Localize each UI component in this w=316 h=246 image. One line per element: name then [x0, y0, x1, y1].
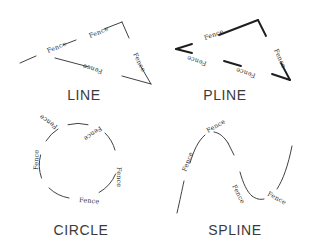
panel-pline: Fence Fence Fence Fence PLINE: [176, 20, 290, 103]
pline-seg: [176, 49, 192, 53]
caption-circle: CIRCLE: [54, 222, 109, 238]
caption-pline: PLINE: [203, 87, 246, 103]
pline-fence-labels: Fence Fence Fence Fence: [186, 27, 288, 79]
spline-seg: [252, 196, 264, 199]
fence-label: Fence: [82, 62, 104, 76]
caption-line: LINE: [67, 87, 101, 103]
line-geometry: [20, 22, 151, 84]
line-seg: [20, 56, 36, 63]
fence-label: Fence: [235, 66, 257, 80]
fence-label: Fence: [88, 25, 110, 40]
fence-label: Fence: [82, 124, 103, 142]
panel-spline: Fence Fence Fence Fence SPLINE: [177, 118, 292, 238]
fence-label: Fence: [186, 54, 208, 68]
fence-label: Fence: [79, 196, 100, 205]
spline-seg: [228, 143, 234, 155]
panel-line: Fence Fence Fence Fence LINE: [20, 22, 151, 103]
spline-seg: [277, 146, 292, 189]
pline-seg: [219, 20, 258, 35]
spline-fence-labels: Fence Fence Fence Fence: [180, 118, 287, 207]
fence-label: Fence: [131, 51, 147, 73]
circle-arc: [68, 123, 88, 124]
fence-label: Fence: [38, 113, 59, 131]
circle-arc: [49, 188, 69, 198]
circle-geometry: [39, 123, 115, 198]
line-seg: [122, 22, 129, 38]
pline-seg: [224, 61, 241, 66]
pline-seg: [258, 20, 266, 36]
line-fence-labels: Fence Fence Fence Fence: [46, 25, 148, 76]
fence-label: Fence: [46, 40, 68, 55]
caption-spline: SPLINE: [208, 222, 261, 238]
spline-seg: [214, 132, 228, 143]
circle-fence-labels: Fence Fence Fence Fence Fence: [32, 113, 123, 206]
fence-label: Fence: [32, 149, 41, 170]
fence-label: Fence: [203, 27, 225, 41]
fence-label: Fence: [115, 167, 123, 187]
circle-arc: [99, 174, 116, 193]
pline-seg: [176, 44, 192, 49]
panel-circle: Fence Fence Fence Fence Fence CIRCLE: [32, 113, 123, 238]
fence-label: Fence: [272, 48, 288, 70]
spline-seg: [177, 181, 184, 213]
fence-label: Fence: [230, 183, 246, 205]
fence-label: Fence: [180, 151, 195, 173]
fence-label: Fence: [266, 190, 288, 207]
fence-linetype-figure: Fence Fence Fence Fence LINE Fence Fence…: [0, 0, 316, 246]
circle-arc: [105, 133, 115, 150]
circle-arc: [46, 129, 58, 141]
